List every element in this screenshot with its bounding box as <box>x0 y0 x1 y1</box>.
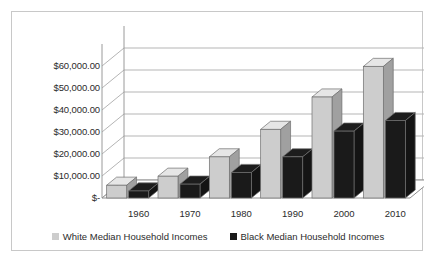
legend-label: White Median Household Incomes <box>63 231 208 242</box>
y-axis-tick-label: $- <box>14 192 100 203</box>
bar-1980-black <box>231 164 261 198</box>
bar-2010-black <box>385 112 415 198</box>
plot-area: $-$10,000.00$20,000.00$30,000.00$40,000.… <box>12 12 424 218</box>
x-axis: 196019701980199020002010 <box>12 208 424 228</box>
y-axis-tick-label: $50,000.00 <box>14 82 100 93</box>
legend-item-white-incomes[interactable]: White Median Household Incomes <box>52 231 208 242</box>
legend-swatch-icon <box>52 233 59 240</box>
x-axis-tick-label-1970: 1970 <box>170 208 210 219</box>
x-axis-tick-label-1980: 1980 <box>221 208 261 219</box>
y-axis-tick-label: $40,000.00 <box>14 104 100 115</box>
x-axis-tick-label-1990: 1990 <box>273 208 313 219</box>
y-axis-tick-label: $60,000.00 <box>14 60 100 71</box>
chart-frame: $-$10,000.00$20,000.00$30,000.00$40,000.… <box>11 11 423 251</box>
legend-item-black-incomes[interactable]: Black Median Household Incomes <box>230 231 385 242</box>
chart-legend: White Median Household IncomesBlack Medi… <box>12 226 424 246</box>
bar-1990-black <box>283 149 313 198</box>
y-axis: $-$10,000.00$20,000.00$30,000.00$40,000.… <box>12 12 100 218</box>
y-axis-tick-label: $10,000.00 <box>14 170 100 181</box>
x-axis-tick-label-2000: 2000 <box>324 208 364 219</box>
legend-swatch-icon <box>230 233 237 240</box>
x-axis-tick-label-1960: 1960 <box>119 208 159 219</box>
bar-2000-black <box>334 123 364 198</box>
x-axis-tick-label-2010: 2010 <box>375 208 415 219</box>
y-axis-tick-label: $30,000.00 <box>14 126 100 137</box>
y-axis-tick-label: $20,000.00 <box>14 148 100 159</box>
legend-label: Black Median Household Incomes <box>241 231 385 242</box>
